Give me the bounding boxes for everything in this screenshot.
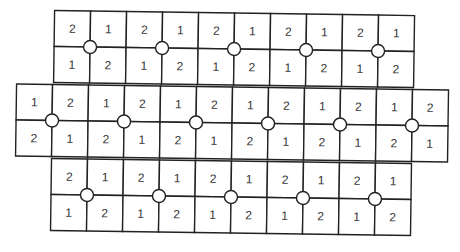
node-circle-icon (368, 192, 381, 205)
cell-label: 2 (176, 59, 183, 73)
cell-label: 2 (139, 97, 146, 111)
cell-label: 1 (353, 210, 360, 224)
cell-label: 1 (68, 58, 75, 72)
cell-label: 2 (390, 136, 397, 150)
cell-label: 1 (210, 134, 217, 148)
cell-label: 1 (249, 24, 256, 38)
node-circle-icon (261, 117, 274, 130)
node-circle-icon (155, 41, 168, 54)
cell-label: 2 (211, 98, 218, 112)
cell-label: 2 (427, 101, 434, 115)
cell-label: 1 (102, 170, 109, 184)
node-circle-icon (189, 116, 202, 129)
cell-label: 1 (390, 174, 397, 188)
cell-label: 1 (212, 60, 219, 74)
cell-label: 2 (392, 62, 399, 76)
cell-label: 2 (141, 23, 148, 37)
node-circle-icon (117, 115, 130, 128)
cell-label: 1 (174, 171, 181, 185)
cell-label: 1 (391, 100, 398, 114)
cell-label: 2 (138, 171, 145, 185)
cell-label: 1 (281, 209, 288, 223)
grid-diagram: 2121212121121212121212121212121221212121… (0, 0, 460, 252)
cell-label: 1 (138, 133, 145, 147)
cell-label: 2 (101, 206, 108, 220)
cell-label: 1 (140, 59, 147, 73)
cell-label: 2 (282, 173, 289, 187)
cell-label: 2 (173, 207, 180, 221)
node-circle-icon (224, 190, 237, 203)
cell-label: 1 (354, 136, 361, 150)
node-circle-icon (80, 188, 93, 201)
cell-label: 2 (30, 131, 37, 145)
cell-label: 2 (318, 135, 325, 149)
cell-label: 2 (354, 174, 361, 188)
cell-label: 2 (102, 132, 109, 146)
cell-label: 1 (246, 172, 253, 186)
cell-label: 2 (246, 134, 253, 148)
cell-label: 2 (69, 22, 76, 36)
node-circle-icon (83, 40, 96, 53)
diagram-root: 2121212121121212121212121212121221212121… (15, 10, 450, 236)
cell-label: 1 (319, 99, 326, 113)
node-circle-icon (371, 44, 384, 57)
cell-label: 1 (318, 173, 325, 187)
cell-label: 2 (357, 26, 364, 40)
cell-label: 1 (105, 22, 112, 36)
top-block: 21212121211212121212 (54, 11, 415, 88)
cell-label: 1 (393, 26, 400, 40)
cell-label: 2 (389, 210, 396, 224)
cell-label: 2 (317, 209, 324, 223)
cell-label: 2 (67, 96, 74, 110)
node-circle-icon (333, 118, 346, 131)
cell-label: 1 (177, 23, 184, 37)
node-circle-icon (405, 119, 418, 132)
cell-label: 1 (282, 135, 289, 149)
node-circle-icon (296, 191, 309, 204)
middle-block: 121212121212212121212121 (16, 84, 449, 162)
cell-label: 1 (426, 137, 433, 151)
cell-label: 2 (320, 61, 327, 75)
node-circle-icon (227, 42, 240, 55)
cell-label: 2 (248, 60, 255, 74)
node-circle-icon (45, 114, 58, 127)
node-circle-icon (152, 189, 165, 202)
cell-label: 2 (283, 99, 290, 113)
cell-label: 1 (31, 95, 38, 109)
cell-label: 1 (321, 25, 328, 39)
cell-label: 1 (66, 132, 73, 146)
cell-label: 1 (284, 61, 291, 75)
cell-label: 2 (355, 100, 362, 114)
cell-label: 1 (137, 207, 144, 221)
cell-label: 2 (210, 172, 217, 186)
cell-label: 1 (175, 97, 182, 111)
cell-label: 2 (213, 24, 220, 38)
cell-label: 1 (103, 96, 110, 110)
node-circle-icon (299, 43, 312, 56)
cell-label: 1 (247, 98, 254, 112)
cell-label: 2 (66, 170, 73, 184)
cell-label: 2 (285, 25, 292, 39)
cell-label: 1 (356, 62, 363, 76)
cell-label: 2 (174, 133, 181, 147)
bottom-block: 21212121211212121212 (51, 159, 412, 236)
cell-label: 2 (104, 58, 111, 72)
cell-label: 2 (245, 208, 252, 222)
cell-label: 1 (209, 208, 216, 222)
cell-label: 1 (65, 206, 72, 220)
